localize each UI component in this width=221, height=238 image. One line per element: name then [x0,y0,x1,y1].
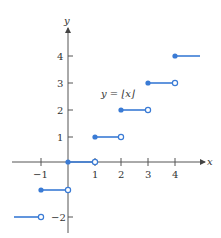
y-tick-label: −2 [51,212,66,223]
y-tick-label: 1 [57,132,63,143]
x-tick-label: 1 [92,169,98,180]
function-label: y = ⌊x⌋ [100,88,135,99]
y-tick-label: 2 [57,105,63,116]
x-axis-label: x [207,156,213,167]
y-tick-label: 4 [57,51,63,62]
open-endpoints [38,80,177,219]
x-tick-label: −1 [33,169,48,180]
floor-function-chart: x y −1 1 2 3 4 4 3 2 1 −2 y = ⌊x⌋ [0,0,221,238]
y-tick-label: 3 [57,78,63,89]
x-tick-label: 2 [118,169,124,180]
step-series [14,56,200,217]
closed-endpoints [38,53,177,192]
x-tick-label: 4 [172,169,178,180]
y-axis-label: y [63,15,70,26]
x-tick-label: 3 [145,169,151,180]
